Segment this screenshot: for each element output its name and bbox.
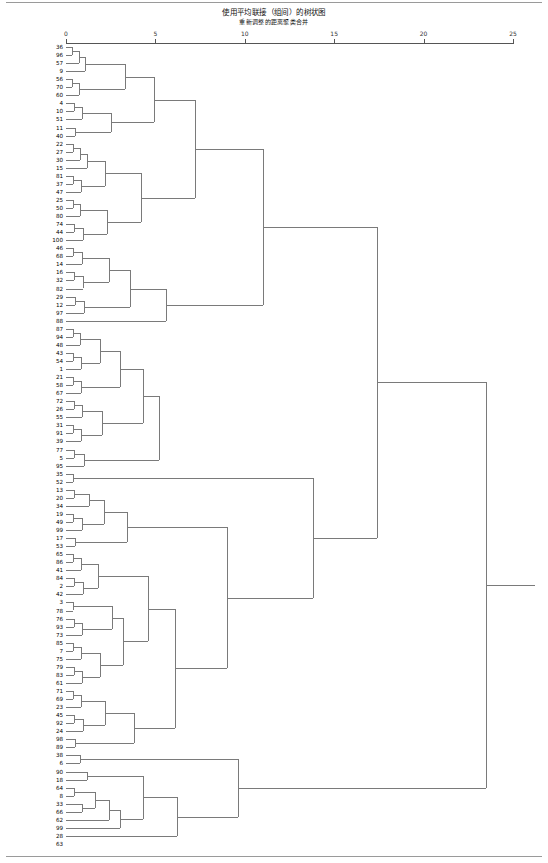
dendrogram-link-horizontal: [66, 63, 79, 64]
dendrogram-leaf: 水翁76: [0, 615, 66, 623]
dendrogram-leaf: 海红豆22: [0, 140, 66, 148]
leaf-case-number: 79: [46, 663, 63, 671]
dendrogram-link-horizontal: [66, 699, 73, 700]
dendrogram-link-horizontal: [66, 602, 73, 603]
leaf-case-number: 86: [46, 558, 63, 566]
dendrogram-link-horizontal: [66, 297, 75, 298]
dendrogram-link-horizontal: [66, 635, 82, 636]
dendrogram-leaf: 大花紫薇8: [0, 792, 66, 800]
leaf-case-number: 57: [46, 59, 63, 67]
dendrogram-link-horizontal: [79, 89, 125, 90]
dendrogram-leaf: 石栗74: [0, 220, 66, 228]
leaf-case-number: 54: [46, 357, 63, 365]
leaf-case-number: 29: [46, 293, 63, 301]
dendrogram-link-horizontal: [81, 363, 100, 364]
dendrogram-leaf: 罗汉松54: [0, 357, 66, 365]
leaf-case-number: 10: [46, 107, 63, 115]
leaf-case-number: 1: [46, 365, 63, 373]
dendrogram-leaf: 小叶榄仁89: [0, 743, 66, 751]
dendrogram-leaf: 降香黄檀42: [0, 590, 66, 598]
dendrogram-link-horizontal: [66, 353, 73, 354]
dendrogram-link-horizontal: [81, 387, 119, 388]
dendrogram-link-horizontal: [66, 103, 74, 104]
dendrogram-link-horizontal: [66, 87, 72, 88]
dendrogram-leaf: 黄钟花44: [0, 228, 66, 236]
dendrogram-link-horizontal: [66, 466, 84, 467]
dendrogram-leaf: 菩提榕68: [0, 252, 66, 260]
dendrogram-link-horizontal: [66, 450, 74, 451]
dendrogram-link-horizontal: [74, 719, 83, 720]
dendrogram-link-horizontal: [83, 588, 98, 589]
dendrogram-link-horizontal: [100, 665, 123, 666]
dendrogram-link-horizontal: [66, 71, 85, 72]
dendrogram-link-horizontal: [66, 788, 74, 789]
dendrogram-link-horizontal: [66, 755, 80, 756]
dendrogram-link-horizontal: [227, 598, 313, 599]
dendrogram-link-horizontal: [66, 144, 73, 145]
leaf-case-number: 25: [46, 196, 63, 204]
dendrogram-link-horizontal: [98, 576, 148, 577]
dendrogram-link-horizontal: [66, 772, 87, 773]
leaf-case-number: 62: [46, 816, 63, 824]
dendrogram-leaf: 水黄皮75: [0, 655, 66, 663]
leaf-case-number: 48: [46, 341, 63, 349]
dendrogram-leaf: 阴香93: [0, 623, 66, 631]
page-frame-top: [6, 2, 542, 3]
dendrogram-link-horizontal: [66, 570, 81, 571]
dendrogram-link-horizontal: [66, 627, 74, 628]
dendrogram-link-horizontal: [81, 435, 102, 436]
dendrogram-leaf: 槟榔椰子21: [0, 373, 66, 381]
dendrogram-link-horizontal: [72, 83, 79, 84]
dendrogram-link-horizontal: [66, 731, 83, 732]
leaf-case-number: 89: [46, 743, 63, 751]
leaf-case-number: 73: [46, 631, 63, 639]
dendrogram-leaf: 铁冬青83: [0, 671, 66, 679]
dendrogram-link-horizontal: [73, 606, 112, 607]
dendrogram-leaf: 垂枝红千层7: [0, 647, 66, 655]
dendrogram-leaf: 海南红豆24: [0, 727, 66, 735]
dendrogram-leaf: 大王椰10: [0, 107, 66, 115]
dendrogram-link-horizontal: [82, 677, 100, 678]
leaf-case-number: 38: [46, 751, 63, 759]
dendrogram-leaf: 台湾相思80: [0, 212, 66, 220]
dendrogram-link-horizontal: [66, 425, 73, 426]
leaf-case-number: 26: [46, 405, 63, 413]
dendrogram-leaf: 金山葵43: [0, 349, 66, 357]
leaf-case-number: 49: [46, 518, 63, 526]
dendrogram-link-horizontal: [175, 668, 227, 669]
dendrogram-leaf: 紫花风铃木99: [0, 824, 66, 832]
leaf-case-number: 77: [46, 446, 63, 454]
dendrogram-leaf: 复羽叶栾树79: [0, 663, 66, 671]
axis-tick-label: 10: [241, 30, 249, 37]
leaf-case-number: 76: [46, 615, 63, 623]
leaf-case-number: 20: [46, 494, 63, 502]
dendrogram-link-horizontal: [195, 149, 263, 150]
dendrogram-link-horizontal: [74, 671, 82, 672]
dendrogram-leaf: 狐尾椰31: [0, 421, 66, 429]
chart-title-block: 使用平均联接（组间）的树状图 重新调整的距离聚类合并: [0, 8, 548, 26]
leaf-case-number: 24: [46, 727, 63, 735]
dendrogram-page: 使用平均联接（组间）的树状图 重新调整的距离聚类合并 0510152025 鸡爪…: [0, 0, 548, 863]
leaf-case-number: 35: [46, 470, 63, 478]
dendrogram-leaf: 银海枣94: [0, 333, 66, 341]
dendrogram-link-horizontal: [120, 369, 143, 370]
dendrogram-link-horizontal: [66, 554, 73, 555]
dendrogram-link-horizontal: [87, 776, 142, 777]
axis-tick-label: 5: [153, 30, 157, 37]
dendrogram-link-horizontal: [166, 305, 263, 306]
dendrogram-link-horizontal: [73, 558, 81, 559]
leaf-case-number: 51: [46, 115, 63, 123]
dendrogram-leaf: 老人葵48: [0, 341, 66, 349]
dendrogram-leaf: 盆花槿47: [0, 188, 66, 196]
dendrogram-link-horizontal: [81, 564, 98, 565]
dendrogram-link-horizontal: [66, 619, 74, 620]
dendrogram-link-horizontal: [74, 405, 82, 406]
dendrogram-leaf: 霸王棕1: [0, 365, 66, 373]
dendrogram-link-horizontal: [66, 804, 82, 805]
dendrogram-link-horizontal: [73, 478, 313, 479]
dendrogram-leaf: 椰子91: [0, 429, 66, 437]
dendrogram-leaf: 黄花风铃木33: [0, 800, 66, 808]
dendrogram-leaf: 鱼木96: [0, 51, 66, 59]
leaf-case-number: 17: [46, 534, 63, 542]
leaf-case-number: 23: [46, 703, 63, 711]
